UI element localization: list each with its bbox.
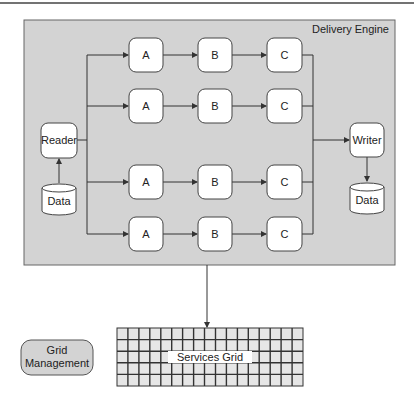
stage-a-node[interactable]: A [129,38,163,72]
stage-label: C [281,49,289,61]
writer-node[interactable]: Writer [350,123,384,157]
stage-label: B [211,49,218,61]
reader-data-label: Data [47,195,71,207]
reader-node[interactable]: Reader [41,123,77,158]
stage-a-node[interactable]: A [129,165,163,199]
reader-data-cylinder[interactable]: Data [42,184,76,215]
stage-c-node[interactable]: C [267,165,302,199]
stage-label: B [211,176,218,188]
grid-management-label-line2: Management [25,357,89,369]
stage-c-node[interactable]: C [267,38,302,72]
services-grid-label: Services Grid [177,351,243,363]
stage-label: C [281,100,289,112]
stage-b-node[interactable]: B [198,165,232,199]
pipeline-row-1: A B C [129,38,302,72]
stage-b-node[interactable]: B [198,89,232,123]
delivery-engine-title: Delivery Engine [312,23,389,35]
pipeline-row-4: A B C [129,217,302,251]
stage-label: C [281,176,289,188]
stage-c-node[interactable]: C [267,89,302,123]
writer-data-label: Data [355,194,379,206]
writer-data-cylinder[interactable]: Data [350,183,384,214]
stage-label: B [211,228,218,240]
stage-label: A [142,100,150,112]
stage-label: A [142,176,150,188]
stage-a-node[interactable]: A [129,89,163,123]
pipeline-row-2: A B C [129,89,302,123]
stage-label: C [281,228,289,240]
stage-label: A [142,228,150,240]
stage-label: B [211,100,218,112]
grid-management-label-line1: Grid [47,344,68,356]
writer-label: Writer [352,134,381,146]
stage-c-node[interactable]: C [267,217,302,251]
grid-management-node[interactable]: Grid Management [21,340,93,375]
delivery-engine-diagram: Delivery Engine [0,0,414,408]
services-grid[interactable]: Services Grid [117,328,303,386]
stage-label: A [142,49,150,61]
reader-label: Reader [41,134,77,146]
stage-b-node[interactable]: B [198,38,232,72]
pipeline-row-3: A B C [129,165,302,199]
stage-a-node[interactable]: A [129,217,163,251]
stage-b-node[interactable]: B [198,217,232,251]
